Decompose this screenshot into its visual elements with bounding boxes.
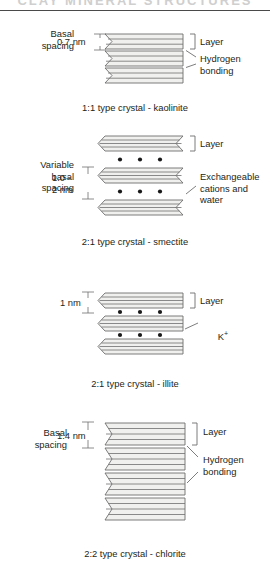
illite-caption: 2:1 type crystal - illite [0, 378, 270, 389]
illite-potassium-label: K+ [202, 316, 228, 354]
illite-layer-label: Layer [200, 295, 223, 307]
header-divider-rule [0, 10, 270, 11]
illite-potassium-leader [185, 323, 198, 329]
chlorite-layer-2 [105, 448, 185, 470]
illite-potassium-row-2 [118, 333, 162, 337]
smectite-exchangeable-label: Exchangeable cations and water [200, 171, 259, 206]
kaolinite-layer-label: Layer [200, 36, 223, 48]
illite-layer-2 [98, 316, 183, 331]
chlorite-layer-stack [105, 423, 185, 520]
illite-layer-1 [98, 293, 183, 308]
smectite-dimension-label: 1.0 - 2 nm [52, 172, 73, 195]
chlorite-caption: 2:2 type crystal - chlorite [0, 548, 270, 559]
chlorite-layer-1 [105, 423, 185, 445]
cropped-header-strip: CLAY MINERAL STRUCTURES [0, 0, 270, 9]
chlorite-hydrogen-bond-leaders [187, 446, 198, 483]
chlorite-layer-3 [105, 473, 185, 495]
smectite-interlayer-cations-row-1 [118, 157, 162, 161]
illite-layer-stack [98, 293, 183, 354]
kaolinite-layer-2 [105, 51, 183, 66]
smectite-dimension-marker [82, 167, 94, 199]
chlorite-dimension-label: 1.4 nm [57, 430, 86, 442]
kaolinite-layer-3 [105, 68, 183, 83]
smectite-layer-1 [98, 136, 183, 151]
chlorite-layer-label: Layer [203, 426, 226, 438]
section-kaolinite: Basal spacing 0.7 nm Layer Hydrogen bond… [0, 22, 270, 122]
chlorite-layer-bracket [192, 423, 197, 445]
illite-dimension-marker [82, 292, 94, 313]
illite-layer-bracket [190, 293, 195, 308]
section-chlorite: Basal spacing 1.4 nm Layer Hydrogen bond… [0, 415, 270, 573]
smectite-layer-stack [98, 136, 183, 215]
smectite-layer-2 [98, 168, 183, 183]
smectite-cation-leader [186, 186, 196, 194]
kaolinite-dimension-label: 0.7 nm [57, 36, 86, 48]
diagram-page: CLAY MINERAL STRUCTURES [0, 0, 270, 573]
illite-potassium-row-1 [118, 310, 162, 314]
illite-potassium-charge: + [224, 330, 228, 337]
smectite-layer-3 [98, 200, 183, 215]
kaolinite-layer-1 [105, 34, 183, 49]
kaolinite-layer-bracket [190, 34, 195, 49]
section-smectite: Variable basal spacing 1.0 - 2 nm Layer … [0, 128, 270, 258]
illite-dimension-label: 1 nm [60, 297, 81, 309]
kaolinite-hydrogen-bond-leaders [186, 51, 196, 68]
chlorite-layer-4 [105, 498, 185, 520]
illite-layer-3 [98, 339, 183, 354]
kaolinite-caption: 1:1 type crystal - kaolinite [0, 102, 270, 113]
kaolinite-hydrogen-bonding-label: Hydrogen bonding [200, 53, 241, 76]
kaolinite-dimension-marker [94, 34, 106, 50]
kaolinite-layer-stack [105, 34, 183, 83]
cropped-header-text: CLAY MINERAL STRUCTURES [0, 0, 270, 8]
smectite-caption: 2:1 type crystal - smectite [0, 236, 270, 247]
smectite-interlayer-cations-row-2 [118, 189, 162, 193]
smectite-layer-bracket [190, 136, 195, 151]
chlorite-hydrogen-bonding-label: Hydrogen bonding [203, 454, 244, 477]
smectite-layer-label: Layer [200, 138, 223, 150]
section-illite: 1 nm Layer K+ 2:1 type crystal - illite [0, 285, 270, 400]
